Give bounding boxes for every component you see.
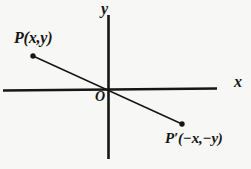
point-label-p-prime: P′(−x,−y) xyxy=(165,131,223,146)
point-label-p: P(x,y) xyxy=(14,30,52,46)
axis-label-x: x xyxy=(234,74,242,90)
axis-label-y: y xyxy=(101,1,108,17)
point-marker-pprime xyxy=(179,121,184,126)
coordinate-plane-diagram: P(x,y) P′(−x,−y) y x O xyxy=(0,0,251,169)
origin-label: O xyxy=(95,90,105,104)
point-marker-p xyxy=(30,53,35,58)
